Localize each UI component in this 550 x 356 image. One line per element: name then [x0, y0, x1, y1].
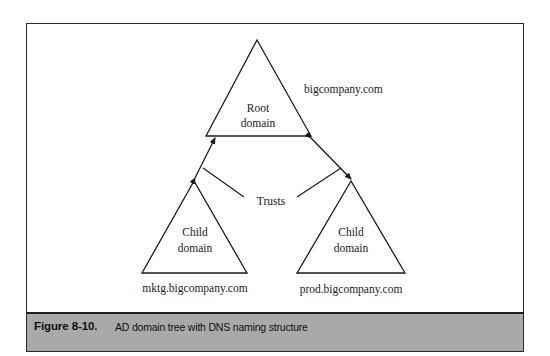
trusts-leader-left: [203, 168, 244, 197]
root-domain-label-line2: domain: [241, 117, 276, 129]
root-domain-label-line1: Root: [247, 102, 270, 114]
child-domain-left-label-line1: Child: [182, 226, 208, 238]
child-domain-left-label-line2: domain: [178, 242, 213, 254]
child-dns-name-right: prod.bigcompany.com: [300, 283, 403, 296]
figure-number: Figure 8-10.: [34, 320, 97, 332]
trust-arrow-left: [195, 138, 215, 178]
trust-arrow-right: [311, 138, 351, 179]
root-dns-name: bigcompany.com: [304, 83, 383, 96]
child-dns-name-left: mktg.bigcompany.com: [142, 282, 247, 295]
child-domain-right-label-line1: Child: [338, 226, 364, 238]
trusts-label: Trusts: [257, 195, 286, 207]
trusts-leader-right: [297, 168, 341, 197]
child-domain-right-label-line2: domain: [334, 242, 369, 254]
figure-caption-text: AD domain tree with DNS naming structure: [115, 321, 308, 333]
domain-tree-diagram: Root domain bigcompany.com Trusts Child …: [0, 0, 550, 356]
figure-caption: Figure 8-10. AD domain tree with DNS nam…: [26, 312, 524, 352]
